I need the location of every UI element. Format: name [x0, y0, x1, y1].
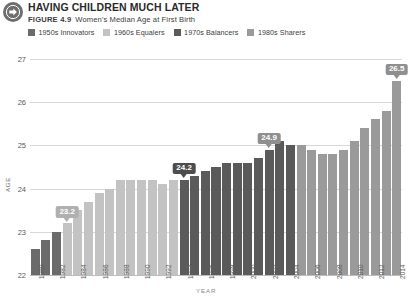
- x-axis-tick-label: 1990: [144, 264, 151, 279]
- x-axis-tick-label: 1988: [123, 264, 130, 279]
- x-axis-tick-label: 1980: [38, 264, 45, 279]
- callout-tail-icon: [64, 218, 70, 222]
- bar: [339, 150, 348, 275]
- bar: [243, 163, 252, 275]
- gridline: [30, 145, 402, 146]
- bar: [392, 81, 401, 275]
- x-axis-tick-label: 1996: [208, 264, 215, 279]
- x-axis-tick-label: 2010: [357, 264, 364, 279]
- page-title: HAVING CHILDREN MUCH LATER: [28, 1, 199, 13]
- x-axis-tick-label: 2014: [399, 264, 406, 279]
- data-callout: 24.2: [173, 163, 196, 179]
- bar: [382, 111, 391, 275]
- legend-item-label: 1960s Equalers: [114, 28, 165, 37]
- legend-swatch-icon: [103, 29, 110, 36]
- legend-item-label: 1970s Balancers: [184, 28, 238, 37]
- x-axis-tick-label: 2012: [378, 264, 385, 279]
- bars-and-grid: 2223242526271980198219841986198819901992…: [30, 59, 402, 275]
- gridline: [30, 102, 402, 103]
- bar: [275, 141, 284, 275]
- bar: [360, 128, 369, 275]
- bar: [201, 171, 210, 275]
- x-axis-tick-label: 2006: [314, 264, 321, 279]
- bar: [371, 119, 380, 275]
- legend-item-label: 1950s Innovators: [39, 28, 95, 37]
- x-axis-tick-label: 2008: [336, 264, 343, 279]
- x-axis-tick-label: 1986: [102, 264, 109, 279]
- gridline: [30, 59, 402, 60]
- y-axis-tick-label: 24: [18, 184, 26, 193]
- legend-item: 1980s Sharers: [247, 28, 305, 37]
- legend-item: 1960s Equalers: [103, 28, 164, 37]
- bar: [105, 189, 114, 275]
- chart-plot-area: AGE YEAR 2223242526271980198219841986198…: [0, 44, 410, 301]
- callout-tail-icon: [181, 174, 187, 178]
- y-axis-tick-label: 22: [18, 271, 26, 280]
- x-axis-tick-label: 1982: [59, 264, 66, 279]
- bar: [233, 163, 242, 275]
- legend-item: 1970s Balancers: [174, 28, 239, 37]
- y-axis-tick-label: 25: [18, 141, 26, 150]
- data-callout: 23.2: [56, 206, 79, 222]
- bar: [297, 145, 306, 275]
- data-callout-value: 23.2: [56, 206, 79, 218]
- figure-number: FIGURE 4.9: [28, 15, 71, 24]
- bar: [328, 154, 337, 275]
- y-axis-tick-label: 23: [18, 227, 26, 236]
- bar: [318, 154, 327, 275]
- bar: [180, 180, 189, 275]
- bar: [116, 180, 125, 275]
- bar: [190, 176, 199, 275]
- x-axis-label: YEAR: [196, 287, 216, 294]
- bar: [286, 145, 295, 275]
- legend-swatch-icon: [28, 29, 35, 36]
- x-axis-tick-label: 1984: [80, 264, 87, 279]
- figure-caption: FIGURE 4.9Women's Median Age at First Bi…: [28, 15, 195, 24]
- data-callout: 24.9: [258, 133, 281, 149]
- x-axis-tick-label: 1994: [187, 264, 194, 279]
- callout-tail-icon: [266, 144, 272, 148]
- data-callout-value: 26.5: [385, 64, 408, 76]
- bar: [265, 150, 274, 275]
- bar: [158, 184, 167, 275]
- x-axis-tick-label: 2002: [272, 264, 279, 279]
- legend-swatch-icon: [174, 29, 181, 36]
- arrow-right-circle-icon: [3, 2, 23, 22]
- bar: [137, 180, 146, 275]
- chart-legend: 1950s Innovators1960s Equalers1970s Bala…: [28, 28, 314, 37]
- bar: [148, 180, 157, 275]
- bar: [350, 141, 359, 275]
- x-axis-tick-label: 2000: [250, 264, 257, 279]
- legend-item: 1950s Innovators: [28, 28, 94, 37]
- y-axis-tick-label: 27: [18, 55, 26, 64]
- x-axis-tick-label: 1992: [165, 264, 172, 279]
- data-callout-value: 24.2: [173, 163, 196, 175]
- bar: [95, 193, 104, 275]
- bar: [307, 150, 316, 275]
- bar: [211, 167, 220, 275]
- x-axis-tick-label: 2004: [293, 264, 300, 279]
- data-callout: 26.5: [385, 64, 408, 80]
- bar: [169, 180, 178, 275]
- y-axis-tick-label: 26: [18, 98, 26, 107]
- chart-header: HAVING CHILDREN MUCH LATER FIGURE 4.9Wom…: [0, 0, 410, 44]
- legend-item-label: 1980s Sharers: [258, 28, 305, 37]
- bar: [222, 163, 231, 275]
- callout-tail-icon: [394, 75, 400, 79]
- legend-swatch-icon: [247, 29, 254, 36]
- data-callout-value: 24.9: [258, 133, 281, 145]
- y-axis-label: AGE: [4, 177, 11, 192]
- bar: [254, 158, 263, 275]
- bar: [126, 180, 135, 275]
- x-axis-tick-label: 1998: [229, 264, 236, 279]
- figure-subtitle: Women's Median Age at First Birth: [75, 15, 195, 24]
